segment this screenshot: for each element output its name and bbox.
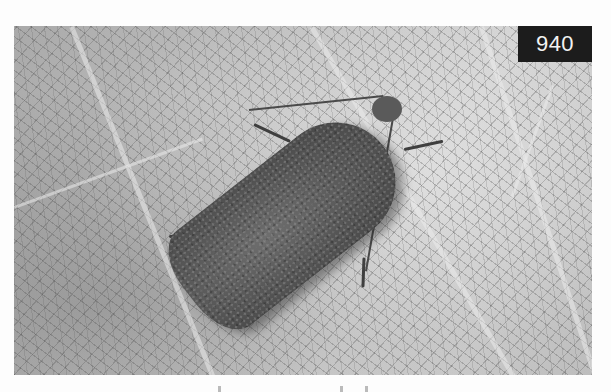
caption-glyph-fragment <box>340 386 343 392</box>
plate-number-badge: 940 <box>518 26 592 62</box>
plate-number: 940 <box>536 31 574 57</box>
moth-head <box>372 96 402 122</box>
moth-antenna <box>249 95 383 111</box>
moth-leg <box>253 123 291 143</box>
moth-wings <box>153 98 420 343</box>
caption-glyph-fragment <box>365 386 368 392</box>
moth-leg <box>404 140 444 151</box>
caption-glyph-fragment <box>218 386 221 392</box>
moth-leg <box>361 257 365 287</box>
moth-photo <box>14 26 592 375</box>
moth <box>154 91 454 351</box>
wing-texture <box>153 98 420 343</box>
cut-off-caption <box>0 378 611 392</box>
